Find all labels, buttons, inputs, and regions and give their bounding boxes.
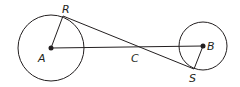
radius-ar [51,16,63,48]
label-a: A [37,52,46,65]
label-c: C [131,52,139,65]
geometry-diagram: A B C R S [0,0,240,87]
label-r: R [62,3,70,16]
point-a-dot [49,46,54,51]
radius-bs [194,46,203,69]
label-s: S [189,72,196,85]
tangent-rs [63,16,194,69]
label-b: B [207,40,215,53]
segment-ab [51,46,203,48]
point-b-dot [201,44,206,49]
